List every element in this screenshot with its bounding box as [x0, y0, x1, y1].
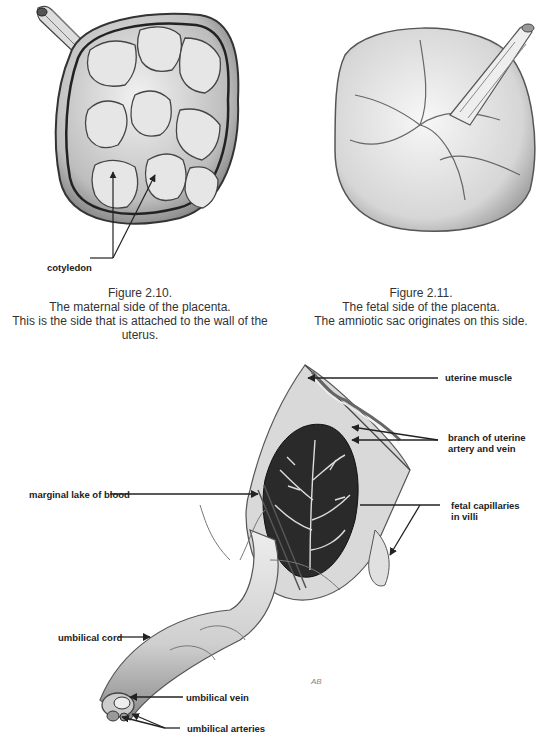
artist-signature: AB — [311, 677, 322, 686]
uterine-muscle-label: uterine muscle — [445, 372, 512, 383]
fetal-capillaries-label: fetal capillaries in villi — [451, 500, 520, 522]
figure-2-10-line1: The maternal side of the placenta. — [0, 300, 280, 314]
fetal-capillaries-label-line2: in villi — [451, 511, 520, 522]
umbilical-cord-label: umbilical cord — [58, 632, 122, 643]
cotyledon-label: cotyledon — [47, 262, 92, 273]
figure-2-11-number: Figure 2.11. — [300, 286, 542, 300]
uterine-branch-label-line1: branch of uterine — [448, 432, 526, 443]
uterine-branch-label-line2: artery and vein — [448, 443, 526, 454]
figure-2-11-caption: Figure 2.11. The fetal side of the place… — [300, 286, 542, 328]
figure-2-10-caption: Figure 2.10. The maternal side of the pl… — [0, 286, 280, 342]
fetal-placenta-drawing — [335, 24, 535, 231]
figure-2-10-line2: This is the side that is attached to the… — [0, 314, 280, 342]
umbilical-vein-label: umbilical vein — [186, 692, 249, 703]
uterine-branch-label: branch of uterine artery and vein — [448, 432, 526, 454]
placenta-cross-section-drawing — [100, 365, 410, 721]
umbilical-arteries-label: umbilical arteries — [187, 723, 265, 734]
fetal-capillaries-label-line1: fetal capillaries — [451, 500, 520, 511]
figure-2-10-number: Figure 2.10. — [0, 286, 280, 300]
maternal-placenta-drawing — [37, 6, 238, 223]
figure-2-11-line1: The fetal side of the placenta. — [300, 300, 542, 314]
figure-2-11-line2: The amniotic sac originates on this side… — [300, 314, 542, 328]
marginal-lake-label: marginal lake of blood — [29, 489, 130, 500]
